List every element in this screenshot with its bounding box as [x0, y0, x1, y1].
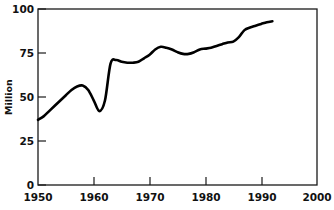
x-tick-label: 1950: [23, 191, 52, 203]
y-axis-ticks: [38, 9, 46, 185]
plot-frame: [38, 9, 317, 185]
data-series-line: [38, 21, 272, 120]
y-tick-label: 0: [27, 179, 34, 191]
x-tick-label: 1990: [247, 191, 276, 203]
x-tick-label: 1960: [79, 191, 108, 203]
y-axis-title: Million: [3, 79, 14, 115]
y-tick-label: 100: [12, 3, 34, 15]
y-tick-label: 50: [19, 91, 34, 103]
x-tick-label: 2000: [302, 191, 331, 203]
x-tick-label: 1970: [135, 191, 164, 203]
x-tick-labels: 1950 1960 1970 1980 1990 2000: [23, 191, 331, 203]
chart-container: 100 75 50 25 0 1950 1960 1970 1980 1990 …: [0, 0, 334, 210]
y-tick-label: 75: [19, 47, 34, 59]
x-tick-label: 1980: [191, 191, 220, 203]
x-axis-ticks: [94, 177, 262, 185]
y-tick-label: 25: [19, 135, 34, 147]
line-chart: 100 75 50 25 0 1950 1960 1970 1980 1990 …: [0, 0, 334, 210]
y-tick-labels: 100 75 50 25 0: [12, 3, 34, 191]
